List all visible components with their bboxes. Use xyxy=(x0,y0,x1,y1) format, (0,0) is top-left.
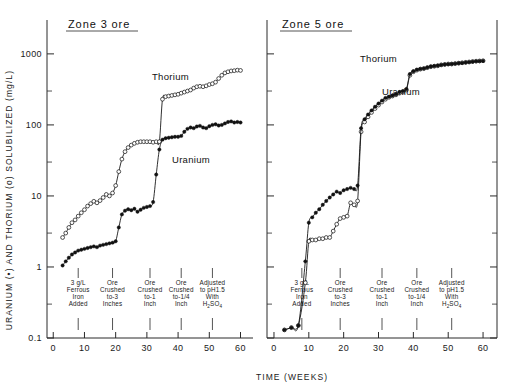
data-point xyxy=(76,214,80,218)
data-point xyxy=(457,61,460,64)
data-point xyxy=(366,113,369,116)
x-tick-label: 0 xyxy=(271,343,276,353)
x-tick-label: 20 xyxy=(338,343,349,353)
data-point xyxy=(114,240,117,243)
data-point xyxy=(447,63,450,66)
data-point xyxy=(436,64,439,67)
data-point xyxy=(123,150,127,154)
data-point xyxy=(64,260,67,263)
data-point xyxy=(136,210,139,213)
x-tick-label: 50 xyxy=(204,343,215,353)
event-annotation-line: to-1 xyxy=(144,293,156,300)
data-point xyxy=(105,242,108,245)
data-point xyxy=(356,199,360,203)
data-point xyxy=(356,184,359,187)
data-point xyxy=(426,66,429,69)
data-point xyxy=(303,281,307,285)
data-point xyxy=(195,125,198,128)
event-annotation-line: Inches xyxy=(103,300,122,307)
event-annotation-line: Inch xyxy=(411,300,424,307)
data-point xyxy=(117,226,120,229)
data-point xyxy=(201,126,204,129)
data-point xyxy=(321,203,324,206)
data-point xyxy=(167,136,170,139)
x-tick-label: 50 xyxy=(443,343,454,353)
data-point xyxy=(214,80,218,84)
data-point xyxy=(145,205,148,208)
event-annotation-line: Crushed xyxy=(100,286,125,293)
data-point xyxy=(373,105,376,108)
x-tick-label: 20 xyxy=(110,343,121,353)
data-point xyxy=(433,64,436,67)
event-annotation-line: Crushed xyxy=(328,286,353,293)
event-annotation-line: to-1/4 xyxy=(408,293,425,300)
event-annotation-line: Inches xyxy=(330,300,349,307)
data-point xyxy=(229,120,232,123)
right-thorium-series-label: Thorium xyxy=(360,53,397,64)
y-tick-label: 10 xyxy=(31,191,42,201)
data-point xyxy=(380,99,383,102)
event-annotation-line: With xyxy=(445,293,459,300)
x-tick-label: 0 xyxy=(51,343,56,353)
data-point xyxy=(95,245,98,248)
event-annotation-line: With xyxy=(206,293,220,300)
data-point xyxy=(415,68,418,71)
y-tick-label: 0.1 xyxy=(28,333,42,343)
data-point xyxy=(359,126,362,129)
data-point xyxy=(83,208,87,212)
data-point xyxy=(408,72,411,75)
data-point xyxy=(142,206,145,209)
data-point xyxy=(198,124,201,127)
data-point xyxy=(183,130,186,133)
data-point xyxy=(220,123,223,126)
data-point xyxy=(67,226,71,230)
data-point xyxy=(189,126,192,129)
x-tick-label: 30 xyxy=(141,343,152,353)
data-point xyxy=(377,102,380,105)
data-point xyxy=(83,247,86,250)
event-annotation-line: Crushed xyxy=(370,286,395,293)
data-point xyxy=(117,170,121,174)
x-axis-title: TIME (WEEKS) xyxy=(256,372,328,382)
y-axis-title: URANIUM (•) AND THORIUM (o) SOLUBILIZED … xyxy=(4,70,14,330)
event-annotation-line: Ore xyxy=(107,279,118,286)
left-uranium-series-label: Uranium xyxy=(172,154,210,165)
x-tick-label: 60 xyxy=(478,343,489,353)
data-point xyxy=(70,221,74,225)
data-point xyxy=(429,65,432,68)
data-point xyxy=(155,173,158,176)
data-point xyxy=(133,207,136,210)
data-point xyxy=(318,208,321,211)
data-point xyxy=(214,123,217,126)
data-point xyxy=(192,126,195,129)
x-tick-label: 10 xyxy=(79,343,90,353)
event-annotation-line: to-3 xyxy=(107,293,119,300)
data-point xyxy=(481,59,484,62)
event-annotation-line: Added xyxy=(69,300,88,307)
data-point xyxy=(173,135,176,138)
data-point xyxy=(328,196,331,199)
data-point xyxy=(120,213,123,216)
data-point xyxy=(349,186,352,189)
event-annotation-line: Ore xyxy=(145,279,156,286)
data-point xyxy=(114,184,118,188)
data-point xyxy=(311,216,314,219)
event-annotation-line: Crushed xyxy=(169,286,194,293)
event-annotation-line: Ore xyxy=(411,279,422,286)
event-annotation-line: to-1/4 xyxy=(173,293,190,300)
data-point xyxy=(92,245,95,248)
event-annotation-line: Ferrous xyxy=(67,286,90,293)
data-point xyxy=(283,328,286,331)
data-point xyxy=(158,148,161,151)
data-point xyxy=(328,236,332,240)
data-point xyxy=(352,203,356,207)
data-point xyxy=(204,126,207,129)
data-point xyxy=(148,204,151,207)
data-point xyxy=(342,189,345,192)
data-point xyxy=(161,138,164,141)
data-point xyxy=(290,326,293,329)
x-tick-label: 40 xyxy=(173,343,184,353)
scientific-figure: URANIUM (•) AND THORIUM (o) SOLUBILIZED … xyxy=(0,0,510,389)
data-point xyxy=(176,135,179,138)
data-point xyxy=(331,229,335,233)
